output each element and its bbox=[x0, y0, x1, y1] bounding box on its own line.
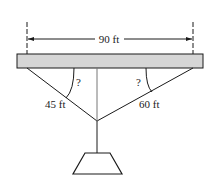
left-arrowhead-icon bbox=[28, 37, 34, 41]
left-angle-arc bbox=[66, 68, 74, 98]
right-cable-label: 60 ft bbox=[139, 98, 159, 110]
beam bbox=[17, 54, 203, 68]
left-angle-label: ? bbox=[76, 76, 81, 88]
weight bbox=[73, 153, 122, 174]
left-cable bbox=[27, 68, 97, 121]
right-angle-label: ? bbox=[136, 76, 141, 88]
cable-beam-diagram: 90 ft ? ? 45 ft 60 ft bbox=[0, 0, 215, 183]
right-angle-arc bbox=[146, 68, 152, 92]
left-cable-label: 45 ft bbox=[45, 98, 65, 110]
span-label: 90 ft bbox=[99, 33, 119, 45]
right-cable bbox=[97, 68, 193, 121]
right-arrowhead-icon bbox=[186, 37, 192, 41]
